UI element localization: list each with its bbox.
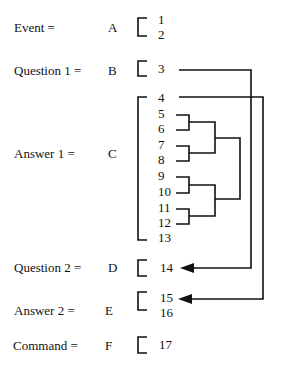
cluster-11-12 — [176, 209, 189, 224]
cluster-9-12 — [189, 185, 215, 216]
cluster-5-6 — [176, 115, 189, 130]
cluster-5-12 — [215, 138, 240, 199]
bracket-c — [138, 97, 147, 240]
cluster-7-8 — [176, 146, 189, 161]
bracket-e — [138, 292, 147, 310]
diagram-lines — [0, 0, 281, 372]
bracket-a — [138, 18, 147, 36]
bracket-d — [138, 260, 147, 276]
cluster-5-8 — [189, 122, 215, 153]
cluster-9-10 — [176, 177, 189, 193]
arrowhead-14 — [180, 263, 194, 273]
bracket-b — [138, 61, 147, 76]
arrowhead-15 — [178, 294, 192, 304]
bracket-f — [138, 337, 147, 353]
